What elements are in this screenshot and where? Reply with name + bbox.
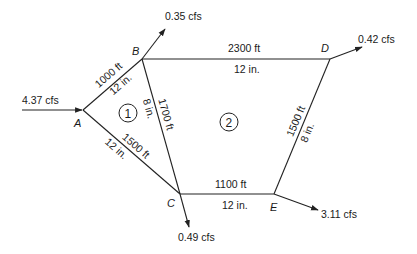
outflow-arrow-e (274, 194, 318, 210)
node-label-c: C (167, 197, 175, 209)
outflow-arrow-c (180, 194, 189, 227)
pipe-b-c-diameter: 8 in. (141, 97, 158, 119)
pipe-b-d-length: 2300 ft (228, 42, 260, 54)
loop-1-label: 1 (125, 107, 132, 121)
pipe-b-c-length: 1700 ft (156, 97, 176, 131)
pipe-c-e-diameter: 12 in. (222, 199, 248, 211)
node-label-a: A (73, 117, 81, 129)
flow-label-d: 0.42 cfs (358, 33, 395, 45)
outflow-arrow-b (142, 29, 165, 59)
flow-label-a: 4.37 cfs (22, 94, 59, 106)
pipe-c-e-length: 1100 ft (215, 178, 246, 190)
node-label-d: D (321, 42, 329, 54)
pipe-b-d-diameter: 12 in. (234, 63, 260, 75)
pipe-network-diagram: 4.37 cfs 0.35 cfs 0.42 cfs 0.49 cfs 3.11… (0, 0, 417, 254)
flow-label-b: 0.35 cfs (165, 10, 202, 22)
node-label-e: E (270, 201, 278, 213)
node-label-b: B (132, 45, 139, 57)
flow-label-c: 0.49 cfs (178, 231, 215, 243)
flow-label-e: 3.11 cfs (321, 208, 357, 220)
loop-2-label: 2 (226, 116, 233, 130)
outflow-arrow-d (330, 47, 362, 59)
